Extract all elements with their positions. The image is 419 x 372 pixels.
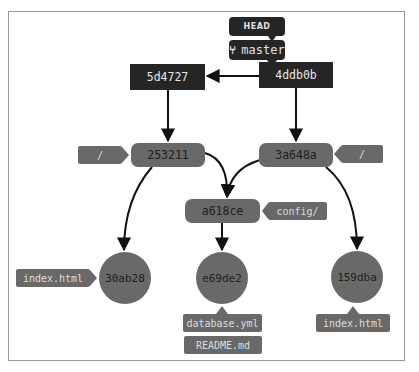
head-ref-label: HEAD (244, 22, 271, 31)
label-pointer-e69de2 (216, 306, 228, 314)
blob-id: 159dba (337, 271, 377, 284)
label-pointer-159dba (347, 306, 359, 314)
git-branch-icon: ⑂ (229, 43, 236, 57)
tree-path-label: / (341, 145, 383, 163)
blob-id: 30ab28 (105, 272, 145, 285)
blob-file-text: index.html (23, 273, 83, 284)
blob-node[interactable]: e69de2 (196, 252, 248, 304)
blob-file-text: database.yml (186, 318, 258, 329)
blob-file-text: index.html (323, 318, 383, 329)
tree-id: a618ce (202, 204, 244, 218)
tree-path-text: / (359, 149, 365, 160)
tree-node[interactable]: 3a648a (259, 143, 333, 167)
blob-file-label: index.html (316, 314, 390, 332)
commit-node[interactable]: 5d4727 (130, 64, 205, 90)
tree-path-text: / (97, 150, 103, 161)
tree-node[interactable]: 253211 (131, 143, 205, 167)
blob-file-label: README.md (184, 336, 262, 354)
branch-ref-label: master (241, 43, 284, 57)
head-ref[interactable]: HEAD (229, 17, 285, 36)
commit-id: 4ddb0b (275, 68, 317, 82)
blob-file-label: index.html (16, 269, 90, 287)
tree-path-label: config/ (268, 202, 327, 220)
edge-253211-a618ce (205, 153, 227, 197)
blob-node[interactable]: 159dba (331, 251, 383, 303)
edge-3a648a-a618ce (227, 160, 260, 197)
blob-file-text: README.md (196, 340, 250, 351)
commit-node[interactable]: 4ddb0b (259, 62, 333, 88)
label-pointer-3a648a (334, 146, 341, 162)
branch-ref-master[interactable]: ⑂ master (229, 40, 285, 60)
label-pointer-253211 (122, 147, 129, 163)
tree-id: 3a648a (275, 148, 317, 162)
blob-node[interactable]: 30ab28 (99, 252, 151, 304)
blob-file-label: database.yml (183, 314, 262, 332)
tree-path-label: / (78, 146, 122, 164)
edge-253211-30ab28 (124, 167, 152, 250)
label-pointer-30ab28 (90, 270, 97, 286)
commit-id: 5d4727 (147, 70, 189, 84)
blob-id: e69de2 (202, 272, 242, 285)
edge-3a648a-159dba (326, 167, 357, 249)
tree-path-text: config/ (276, 206, 318, 217)
tree-node[interactable]: a618ce (185, 199, 260, 223)
tree-id: 253211 (147, 148, 189, 162)
